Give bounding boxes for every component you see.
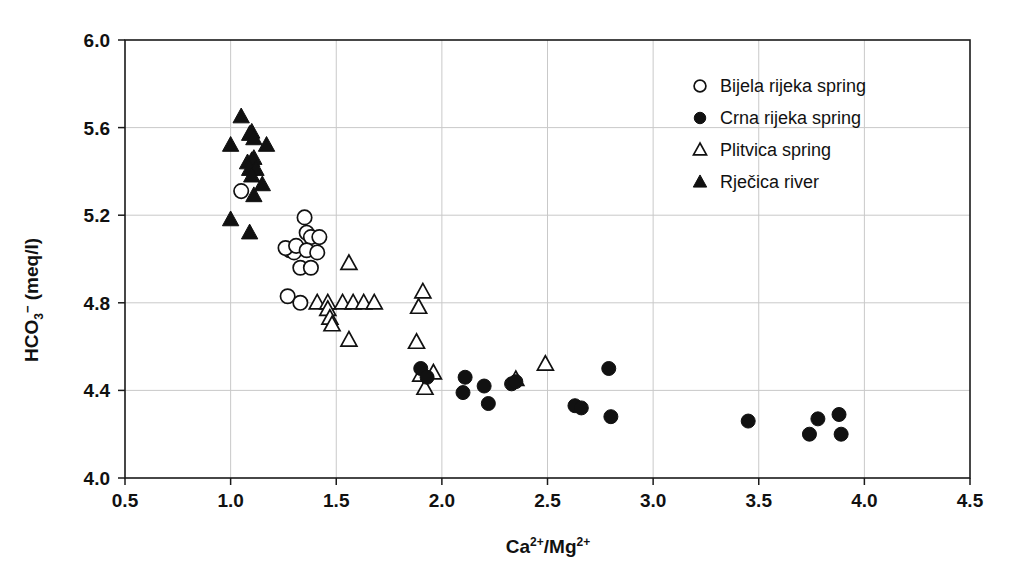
marker-filled-circle xyxy=(802,427,816,441)
x-title-separator: /Mg xyxy=(544,536,577,557)
legend-item-2[interactable]: Crna rijeka spring xyxy=(694,108,861,128)
y-tick-label: 4.0 xyxy=(84,468,110,489)
x-tick-label: 4.5 xyxy=(957,490,984,511)
x-tick-label: 3.5 xyxy=(746,490,773,511)
legend-item-label: Bijela rijeka spring xyxy=(720,76,866,96)
scatter-plot: 0.51.01.52.02.53.03.54.04.5 4.04.44.85.2… xyxy=(0,0,1026,577)
marker-open-circle xyxy=(293,296,307,310)
marker-filled-circle xyxy=(602,362,616,376)
x-tick-label: 2.0 xyxy=(429,490,455,511)
marker-open-circle xyxy=(304,261,318,275)
legend-item-label: Rječica river xyxy=(720,172,819,192)
x-axis-tick-labels: 0.51.01.52.02.53.03.54.04.5 xyxy=(112,490,984,511)
x-tick-label: 2.5 xyxy=(534,490,561,511)
marker-filled-circle xyxy=(456,386,470,400)
marker-filled-circle xyxy=(811,412,825,426)
y-tick-label: 5.2 xyxy=(84,205,110,226)
marker-open-circle xyxy=(234,184,248,198)
x-title-ca-superscript: 2+ xyxy=(530,535,544,549)
y-title-main: HCO xyxy=(21,320,42,362)
marker-filled-circle xyxy=(574,401,588,415)
y-title-unit: (meq/l) xyxy=(21,238,42,306)
legend-item-label: Plitvica spring xyxy=(720,140,831,160)
y-tick-label: 4.8 xyxy=(84,293,110,314)
marker-open-circle xyxy=(694,80,706,92)
x-title-ca: Ca xyxy=(506,536,531,557)
marker-filled-circle xyxy=(481,397,495,411)
marker-open-circle xyxy=(297,210,311,224)
x-tick-label: 0.5 xyxy=(112,490,139,511)
marker-filled-circle xyxy=(694,112,705,123)
marker-filled-circle xyxy=(834,427,848,441)
marker-filled-circle xyxy=(458,370,472,384)
x-tick-label: 1.5 xyxy=(323,490,350,511)
x-title-mg-superscript: 2+ xyxy=(577,535,591,549)
y-tick-label: 4.4 xyxy=(84,380,111,401)
marker-filled-circle xyxy=(741,414,755,428)
chart-figure: 0.51.01.52.02.53.03.54.04.5 4.04.44.85.2… xyxy=(0,0,1026,577)
x-tick-label: 4.0 xyxy=(851,490,877,511)
legend-item-1[interactable]: Bijela rijeka spring xyxy=(694,76,866,96)
marker-filled-circle xyxy=(604,410,618,424)
marker-filled-circle xyxy=(420,370,434,384)
marker-open-circle xyxy=(312,230,326,244)
marker-open-circle xyxy=(310,245,324,259)
y-tick-label: 5.6 xyxy=(84,118,110,139)
legend-item-label: Crna rijeka spring xyxy=(720,108,861,128)
x-tick-label: 1.0 xyxy=(217,490,243,511)
x-tick-label: 3.0 xyxy=(640,490,666,511)
marker-filled-circle xyxy=(832,407,846,421)
marker-filled-circle xyxy=(509,375,523,389)
y-tick-label: 6.0 xyxy=(84,30,110,51)
marker-filled-circle xyxy=(477,379,491,393)
